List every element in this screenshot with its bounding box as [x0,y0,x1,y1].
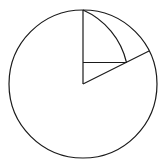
geometry-diagram [0,0,167,164]
diagram-svg [0,0,167,164]
inner-arc [83,10,127,63]
oblique-radius [83,51,149,84]
